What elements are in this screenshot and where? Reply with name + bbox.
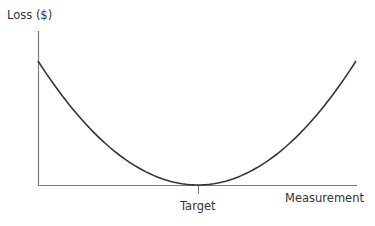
target-tick-label: Target [180,199,216,213]
y-axis-label: Loss ($) [7,8,52,22]
loss-curve [38,61,356,185]
x-axis-label: Measurement [285,191,364,205]
